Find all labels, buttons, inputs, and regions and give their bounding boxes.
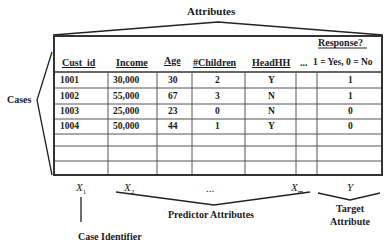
var-y: Y bbox=[347, 181, 353, 193]
table-cell: 0 bbox=[348, 121, 353, 131]
table-cell: 30,000 bbox=[113, 75, 139, 85]
table-cell: 0 bbox=[348, 106, 353, 116]
col-header-ellipsis: ... bbox=[300, 57, 308, 68]
predictor-attributes-label: Predictor Attributes bbox=[168, 209, 254, 220]
table-cell: 23 bbox=[168, 106, 178, 116]
table-cell: 44 bbox=[168, 121, 178, 131]
col-header-headhh: HeadHH bbox=[252, 57, 290, 68]
table-cell: 25,000 bbox=[113, 106, 139, 116]
table-cell: Y bbox=[268, 75, 275, 85]
col-header-children: #Children bbox=[193, 57, 236, 68]
col-header-cust-id: Cust_id bbox=[62, 57, 95, 68]
table-cell: 67 bbox=[168, 91, 178, 101]
table-cell: 2 bbox=[215, 75, 220, 85]
target-attribute-label-line1: Target bbox=[336, 203, 364, 214]
col-header-response-coding: 1 = Yes, 0 = No bbox=[313, 57, 373, 67]
table-cell: N bbox=[268, 106, 275, 116]
table-cell: 1004 bbox=[60, 121, 79, 131]
table-cell: 50,000 bbox=[113, 121, 139, 131]
table-cell: 1 bbox=[215, 121, 220, 131]
table-cell: N bbox=[268, 91, 275, 101]
table-cell: 55,000 bbox=[113, 91, 139, 101]
cases-label: Cases bbox=[7, 94, 31, 105]
var-x1: X1 bbox=[76, 181, 86, 196]
table-cell: 1 bbox=[348, 75, 353, 85]
col-header-age: Age bbox=[164, 55, 181, 66]
response-header: Response? bbox=[318, 37, 363, 48]
case-identifier-label: Case Identifier bbox=[78, 231, 142, 242]
col-header-income: Income bbox=[116, 57, 148, 68]
table-cell: 30 bbox=[168, 75, 178, 85]
var-x2: X2 bbox=[124, 181, 134, 196]
var-ellipsis: ... bbox=[206, 182, 214, 194]
table-cell: 3 bbox=[215, 91, 220, 101]
table-cell: 1003 bbox=[60, 106, 79, 116]
table-cell: 1002 bbox=[60, 91, 79, 101]
var-xm: Xm bbox=[291, 181, 303, 196]
target-attribute-label-line2: Attribute bbox=[330, 216, 370, 227]
table-cell: 1 bbox=[348, 91, 353, 101]
table-cell: Y bbox=[268, 121, 275, 131]
table-cell: 0 bbox=[215, 106, 220, 116]
table-cell: 1001 bbox=[60, 75, 79, 85]
